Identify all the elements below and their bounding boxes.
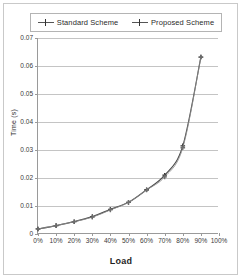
x-tick-label: 0% bbox=[33, 238, 42, 245]
data-point-marker bbox=[126, 200, 131, 205]
y-tick-label: 0.04 bbox=[20, 119, 33, 126]
legend-marker-icon bbox=[38, 18, 54, 27]
series-line bbox=[38, 57, 201, 229]
x-tick-label: 80% bbox=[176, 238, 189, 245]
x-tick-label: 20% bbox=[68, 238, 81, 245]
y-tick-label: 0.02 bbox=[20, 175, 33, 182]
y-tick-label: 0.03 bbox=[20, 147, 33, 154]
x-tick-label: 50% bbox=[122, 238, 135, 245]
legend-marker-icon bbox=[132, 18, 148, 27]
data-series-layer bbox=[38, 38, 219, 234]
chart-figure: Standard Scheme Proposed Scheme 00.010.0… bbox=[0, 0, 242, 279]
y-tick-label: 0.05 bbox=[20, 91, 33, 98]
x-tick-label: 90% bbox=[194, 238, 207, 245]
x-axis-title: Load bbox=[0, 256, 242, 266]
data-point-marker bbox=[54, 223, 59, 228]
series-standard-scheme bbox=[36, 55, 204, 232]
legend-entry-standard-scheme[interactable]: Standard Scheme bbox=[38, 18, 119, 27]
y-tick-label: 0.01 bbox=[20, 203, 33, 210]
x-tick-label: 100% bbox=[211, 238, 228, 245]
legend-label: Standard Scheme bbox=[57, 18, 119, 27]
legend-label: Proposed Scheme bbox=[151, 18, 214, 27]
data-point-marker bbox=[199, 55, 204, 60]
x-tick-label: 60% bbox=[140, 238, 153, 245]
chart-legend: Standard Scheme Proposed Scheme bbox=[30, 13, 222, 32]
y-tick-label: 0.06 bbox=[20, 63, 33, 70]
x-tick-mark bbox=[219, 233, 220, 236]
x-tick-label: 10% bbox=[50, 238, 63, 245]
data-point-marker bbox=[72, 219, 77, 224]
series-line bbox=[38, 57, 201, 229]
x-tick-label: 70% bbox=[158, 238, 171, 245]
y-tick-label: 0.07 bbox=[20, 35, 33, 42]
plot-area: 00.010.020.030.040.050.060.07 0%10%20%30… bbox=[37, 38, 218, 234]
data-point-marker bbox=[36, 227, 41, 232]
series-proposed-scheme bbox=[36, 55, 204, 232]
y-axis-title: Time (s) bbox=[10, 109, 17, 136]
x-tick-label: 40% bbox=[104, 238, 117, 245]
x-tick-label: 30% bbox=[86, 238, 99, 245]
legend-entry-proposed-scheme[interactable]: Proposed Scheme bbox=[132, 18, 214, 27]
